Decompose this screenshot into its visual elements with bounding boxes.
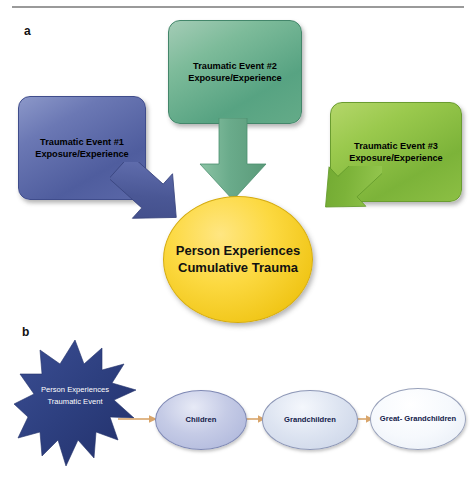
ellipse-great-grandchildren: Great- Grandchildren bbox=[370, 388, 466, 450]
circle-line1: Person bbox=[176, 243, 220, 258]
panel-label-b: b bbox=[22, 325, 29, 339]
panel-label-a: a bbox=[24, 24, 31, 38]
ellipse-great-grandchildren-line1: Great- bbox=[380, 414, 402, 423]
figure-canvas: a Traumatic Event #2 Exposure/Experience… bbox=[0, 0, 476, 479]
event-box-2: Traumatic Event #2 Exposure/Experience bbox=[168, 20, 302, 124]
event-box-2-line2: Exposure/Experience bbox=[188, 72, 281, 84]
circle-line2: Experiences bbox=[224, 243, 301, 258]
circle-line3: Cumulative bbox=[178, 260, 248, 275]
ellipse-great-grandchildren-line2: Grandchildren bbox=[404, 414, 456, 423]
ellipse-grandchildren: Grandchildren bbox=[262, 390, 358, 450]
ellipse-grandchildren-label: Grandchildren bbox=[284, 415, 336, 424]
cumulative-trauma-circle: Person Experiences Cumulative Trauma bbox=[163, 196, 313, 323]
ellipse-children: Children bbox=[155, 390, 247, 450]
ellipse-children-label: Children bbox=[186, 415, 217, 424]
event-box-1-line1: Traumatic Event #1 bbox=[35, 136, 128, 148]
event-box-2-line1: Traumatic Event #2 bbox=[188, 60, 281, 72]
connector-burst-to-children-icon bbox=[118, 414, 158, 424]
circle-line4: Trauma bbox=[252, 260, 298, 275]
event-box-1-line2: Exposure/Experience bbox=[35, 148, 128, 160]
traumatic-event-starburst-icon bbox=[14, 338, 136, 466]
header-divider bbox=[12, 6, 464, 8]
event-box-3-line2: Exposure/Experience bbox=[349, 152, 442, 164]
event-box-3-line1: Traumatic Event #3 bbox=[349, 140, 442, 152]
